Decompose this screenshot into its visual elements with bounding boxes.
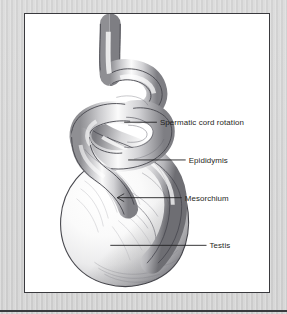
label-spermatic-cord-rotation: Spermatic cord rotation: [160, 118, 244, 127]
label-testis: Testis: [209, 241, 230, 250]
label-epididymis: Epididymis: [189, 156, 228, 165]
anatomy-illustration: Spermatic cord rotation Epididymis Mesor…: [25, 14, 269, 292]
label-mesorchium: Mesorchium: [185, 194, 229, 203]
figure-frame: Spermatic cord rotation Epididymis Mesor…: [24, 13, 270, 293]
illustration-page: Spermatic cord rotation Epididymis Mesor…: [0, 0, 287, 314]
bottom-rule: [0, 310, 287, 312]
